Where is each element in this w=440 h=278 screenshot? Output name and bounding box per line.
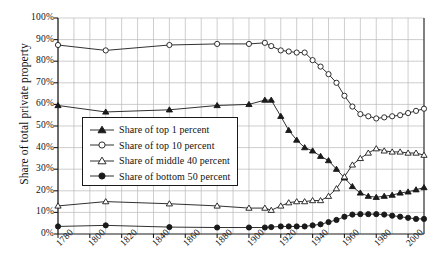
open-circle-icon [89, 139, 115, 151]
x-tick-label: 1840 [150, 227, 171, 248]
legend-label: Share of top 1 percent [119, 124, 210, 135]
legend-label: Share of middle 40 percent [119, 155, 230, 166]
legend-item-3: Share of bottom 50 percent [89, 169, 233, 185]
x-tick-label: 1960 [340, 227, 361, 248]
x-tick-label: 1900 [245, 227, 266, 248]
open-triangle-icon [89, 155, 115, 167]
x-tick-label: 1800 [86, 227, 107, 248]
filled-triangle-icon [89, 124, 115, 136]
legend-label: Share of top 10 percent [119, 140, 215, 151]
x-tick-label: 1920 [277, 227, 298, 248]
legend-item-1: Share of top 10 percent [89, 138, 233, 154]
x-tick-label: 1880 [213, 227, 234, 248]
x-tick-label: 1980 [372, 227, 393, 248]
x-tick-label: 1940 [309, 227, 330, 248]
x-tick-label: 2000 [404, 227, 425, 248]
filled-circle-icon [89, 170, 115, 182]
chart-container: Share of total private property 100%90%8… [0, 0, 440, 278]
x-tick-label: 1780 [54, 227, 75, 248]
x-tick-label: 1820 [118, 227, 139, 248]
x-tick-label: 1860 [181, 227, 202, 248]
legend-item-0: Share of top 1 percent [89, 122, 233, 138]
legend-label: Share of bottom 50 percent [119, 171, 230, 182]
legend-item-2: Share of middle 40 percent [89, 153, 233, 169]
chart-legend: Share of top 1 percentShare of top 10 pe… [82, 117, 238, 186]
